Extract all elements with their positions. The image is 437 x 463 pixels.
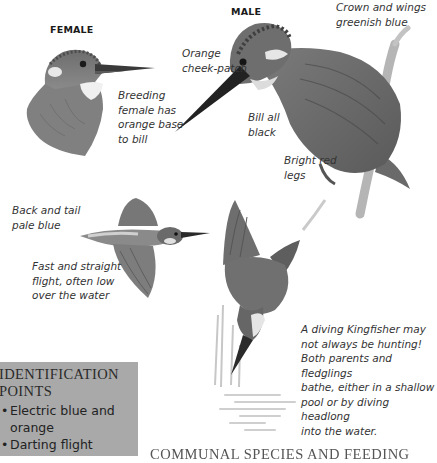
identification-point: orange xyxy=(0,419,138,436)
caption-bill-black: Bill all black xyxy=(248,110,280,139)
caption-red-legs: Bright red legs xyxy=(284,153,337,182)
caption-female-bill: Breeding female has orange base to bill xyxy=(118,88,183,146)
caption-flight: Fast and straight flight, often low over… xyxy=(32,259,121,303)
caption-diving: A diving Kingfisher may not always be hu… xyxy=(301,322,437,438)
identification-point: •Electric blue and xyxy=(0,402,138,419)
identification-points-box: IDENTIFICATION POINTS •Electric blue and… xyxy=(0,362,138,456)
bullet-icon: • xyxy=(1,402,8,419)
identification-list: •Electric blue and orange •Darting fligh… xyxy=(0,402,138,453)
identification-title: IDENTIFICATION POINTS xyxy=(0,362,138,400)
caption-crown-wings: Crown and wings greenish blue xyxy=(336,0,426,29)
male-perched-illustration xyxy=(210,14,437,214)
female-label: FEMALE xyxy=(50,24,94,35)
caption-orange-cheek: Orange cheek-patch xyxy=(182,46,247,75)
caption-back-tail: Back and tail pale blue xyxy=(12,203,80,232)
section-heading: COMMUNAL SPECIES AND FEEDING xyxy=(150,446,410,463)
identification-point: •Darting flight xyxy=(0,436,138,453)
bullet-icon: • xyxy=(1,436,8,453)
